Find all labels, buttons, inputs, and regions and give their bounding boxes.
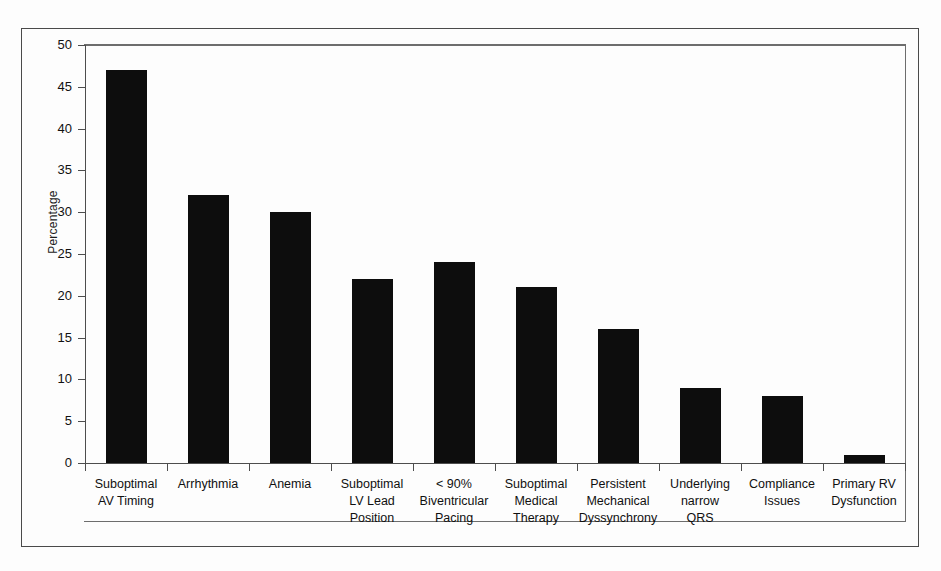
x-axis-tick-mark xyxy=(85,463,86,471)
x-axis-category-label-line: Issues xyxy=(741,493,823,510)
x-axis-category-label: Arrhythmia xyxy=(167,476,249,493)
x-axis-category-label-line: Therapy xyxy=(495,510,577,527)
y-axis-tick-label: 50 xyxy=(58,37,72,52)
y-axis-tick-mark xyxy=(78,129,85,130)
x-axis-tick-mark xyxy=(659,463,660,471)
x-axis-category-label-line: narrow xyxy=(659,493,741,510)
y-axis-tick-label: 30 xyxy=(58,204,72,219)
y-axis-tick-label: 10 xyxy=(58,371,72,386)
x-axis-category-label: Anemia xyxy=(249,476,331,493)
bar xyxy=(270,212,311,463)
x-axis-category-label-line: Anemia xyxy=(249,476,331,493)
x-axis-category-label: < 90%BiventricularPacing xyxy=(413,476,495,527)
x-axis-category-label-line: Suboptimal xyxy=(495,476,577,493)
x-axis-category-label: ComplianceIssues xyxy=(741,476,823,510)
x-axis-category-label-line: < 90% xyxy=(413,476,495,493)
y-axis-tick-label: 15 xyxy=(58,330,72,345)
bar xyxy=(680,388,721,463)
y-axis-tick-label: 0 xyxy=(65,455,72,470)
bar xyxy=(188,195,229,463)
y-axis-tick-mark xyxy=(78,170,85,171)
x-axis-category-label: SuboptimalAV Timing xyxy=(85,476,167,510)
x-axis-category-label-line: Pacing xyxy=(413,510,495,527)
x-axis-tick-mark xyxy=(167,463,168,471)
x-axis-tick-mark xyxy=(331,463,332,471)
x-axis-category-label: SuboptimalMedicalTherapy xyxy=(495,476,577,527)
y-axis-tick-mark xyxy=(78,338,85,339)
x-axis-category-label-line: QRS xyxy=(659,510,741,527)
y-axis-tick-mark xyxy=(78,421,85,422)
y-axis-tick-mark xyxy=(78,254,85,255)
bar xyxy=(762,396,803,463)
plot-area xyxy=(85,45,905,463)
bar xyxy=(844,455,885,463)
x-axis-tick-mark xyxy=(823,463,824,471)
x-axis-category-label-line: Compliance xyxy=(741,476,823,493)
x-axis-tick-mark xyxy=(741,463,742,471)
x-axis-category-label-line: Position xyxy=(331,510,413,527)
x-axis-category-label-line: Persistent xyxy=(577,476,659,493)
x-axis-category-label-line: Arrhythmia xyxy=(167,476,249,493)
x-axis-tick-mark xyxy=(577,463,578,471)
y-axis-tick-label: 45 xyxy=(58,79,72,94)
x-axis-category-label: UnderlyingnarrowQRS xyxy=(659,476,741,527)
x-axis-category-label-line: Suboptimal xyxy=(331,476,413,493)
x-axis-category-label-line: Mechanical xyxy=(577,493,659,510)
y-axis-tick-label: 5 xyxy=(65,413,72,428)
x-axis-category-label-line: LV Lead xyxy=(331,493,413,510)
x-axis-tick-mark xyxy=(413,463,414,471)
y-axis-title: Percentage xyxy=(46,162,60,282)
bar xyxy=(516,287,557,463)
bar xyxy=(434,262,475,463)
y-axis-tick-label: 20 xyxy=(58,288,72,303)
y-axis-tick-mark xyxy=(78,212,85,213)
x-axis-category-label-line: Biventricular xyxy=(413,493,495,510)
bar xyxy=(598,329,639,463)
y-axis-tick-mark xyxy=(78,463,85,464)
x-axis-category-label-line: AV Timing xyxy=(85,493,167,510)
y-axis-tick-mark xyxy=(78,379,85,380)
x-axis-category-label: Primary RVDysfunction xyxy=(823,476,905,510)
y-axis-tick-mark xyxy=(78,87,85,88)
x-axis-category-label-line: Dyssynchrony xyxy=(577,510,659,527)
x-axis-category-label-line: Dysfunction xyxy=(823,493,905,510)
x-axis-category-label-line: Primary RV xyxy=(823,476,905,493)
bar xyxy=(106,70,147,463)
x-axis-category-label-line: Medical xyxy=(495,493,577,510)
y-axis-tick-label: 35 xyxy=(58,162,72,177)
y-axis-tick-label: 25 xyxy=(58,246,72,261)
x-axis-category-label: PersistentMechanicalDyssynchrony xyxy=(577,476,659,527)
y-axis-tick-mark xyxy=(78,296,85,297)
x-axis-category-label-line: Suboptimal xyxy=(85,476,167,493)
figure-bar-chart: Percentage 05101520253035404550 Suboptim… xyxy=(0,0,941,571)
x-axis-tick-mark xyxy=(495,463,496,471)
x-axis-tick-mark xyxy=(249,463,250,471)
y-axis-tick-label: 40 xyxy=(58,121,72,136)
y-axis-tick-mark xyxy=(78,45,85,46)
x-axis-category-label: SuboptimalLV LeadPosition xyxy=(331,476,413,527)
x-axis-tick-mark xyxy=(905,463,906,471)
x-axis-category-label-line: Underlying xyxy=(659,476,741,493)
bar xyxy=(352,279,393,463)
